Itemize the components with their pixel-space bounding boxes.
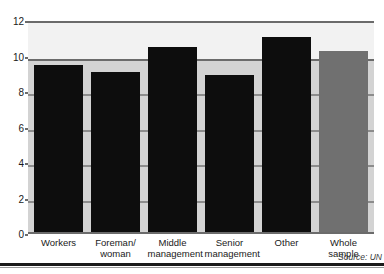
y-tick-label: 4 [18, 159, 24, 169]
bar-other[interactable] [262, 37, 312, 232]
x-label-foreman-woman: Foreman/ woman [91, 237, 141, 259]
x-label-line: Whole [319, 237, 369, 248]
bar-workers[interactable] [34, 65, 84, 232]
bar-chart-figure: 12 10 8 6 4 2 0 [0, 0, 384, 274]
x-label-line: Foreman/ [91, 237, 141, 248]
x-label-line: woman [91, 248, 141, 259]
plot-background [28, 21, 374, 234]
x-label-line: Senior [205, 237, 255, 248]
y-tick-label: 6 [18, 124, 24, 134]
bar-series [28, 23, 374, 232]
bottom-rule-secondary [0, 267, 384, 268]
source-note: Source: UN [338, 252, 382, 262]
bar-slot-senior-management [205, 23, 255, 232]
bar-slot-other [262, 23, 312, 232]
x-label-senior-management: Senior management [205, 237, 255, 259]
bottom-rule [0, 263, 384, 266]
bar-senior-management[interactable] [205, 75, 255, 232]
y-tick-label: 8 [18, 88, 24, 98]
y-tick-mark [25, 234, 28, 236]
x-label-other: Other [262, 237, 312, 259]
x-label-middle-management: Middle management [148, 237, 198, 259]
bar-slot-workers [34, 23, 84, 232]
y-tick-label: 10 [13, 53, 24, 63]
x-label-line: management [148, 248, 198, 259]
y-axis: 12 10 8 6 4 2 0 [0, 21, 28, 236]
bar-slot-whole-sample [319, 23, 369, 232]
x-label-workers: Workers [34, 237, 84, 259]
x-label-line: management [205, 248, 255, 259]
y-tick-label: 12 [13, 17, 24, 27]
bar-slot-middle-management [148, 23, 198, 232]
y-tick-label: 2 [18, 195, 24, 205]
bar-middle-management[interactable] [148, 47, 198, 232]
x-axis-labels: Workers Foreman/ woman Middle management… [28, 237, 374, 259]
bar-whole-sample[interactable] [319, 51, 369, 232]
plot-area [28, 21, 374, 234]
bar-foreman-woman[interactable] [91, 72, 141, 232]
x-label-line: Workers [34, 237, 84, 248]
axis-baseline [28, 232, 374, 234]
bar-slot-foreman-woman [91, 23, 141, 232]
x-label-line: Other [262, 237, 312, 248]
y-tick-label: 0 [18, 230, 24, 240]
x-label-line: Middle [148, 237, 198, 248]
